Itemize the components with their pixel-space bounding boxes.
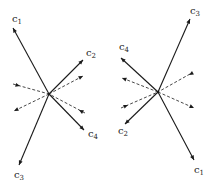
dashed-vector: [121, 92, 158, 109]
vector-diagram-canvas: c1c2c4c3c3c4c2c1: [0, 0, 208, 184]
dashed-line: [158, 92, 194, 108]
vector-line: [19, 94, 49, 165]
dashed-vector: [122, 78, 158, 92]
dashed-arrowhead-icon: [78, 76, 83, 80]
vector-c2: c2: [118, 92, 158, 138]
right-diagram: c3c4c2c1: [118, 5, 204, 177]
dashed-vector: [14, 94, 49, 111]
vector-label: c4: [88, 128, 99, 141]
dashed-line: [14, 94, 49, 111]
vector-line: [49, 60, 83, 94]
origin-point: [157, 91, 159, 93]
dashed-arrowhead-icon: [123, 105, 128, 109]
vector-label: c2: [118, 125, 128, 138]
dashed-arrowhead-icon: [122, 78, 127, 82]
vector-c1: c1: [12, 13, 49, 94]
dashed-arrowhead-icon: [189, 71, 194, 75]
dashed-line: [49, 76, 83, 94]
left-diagram: c1c2c4c3: [12, 13, 99, 182]
dashed-line: [158, 74, 190, 92]
vector-line: [158, 92, 194, 160]
dashed-vector: [49, 94, 85, 114]
dashed-line: [122, 78, 158, 92]
vector-c1: c1: [158, 92, 204, 177]
dashed-vector: [49, 76, 83, 94]
vector-line: [158, 19, 190, 92]
vector-line: [121, 58, 158, 92]
vector-label: c1: [194, 164, 204, 177]
vector-line: [125, 92, 158, 124]
dashed-vector: [158, 92, 194, 108]
vector-line: [49, 94, 84, 130]
dashed-vector: [158, 71, 194, 92]
vector-c2: c2: [49, 47, 96, 94]
vector-label: c1: [12, 13, 22, 26]
diagram-layer: c1c2c4c3c3c4c2c1: [12, 5, 204, 182]
vector-c3: c3: [158, 5, 200, 92]
vector-label: c4: [119, 41, 130, 54]
origin-point: [48, 93, 50, 95]
vector-label: c3: [190, 5, 200, 18]
vector-c4: c4: [49, 94, 99, 141]
vector-c3: c3: [14, 94, 49, 182]
vector-line: [13, 28, 49, 94]
vector-label: c3: [14, 169, 24, 182]
vector-label: c2: [86, 47, 96, 60]
dashed-arrowhead-icon: [189, 104, 194, 108]
dashed-arrowhead-icon: [14, 107, 19, 111]
